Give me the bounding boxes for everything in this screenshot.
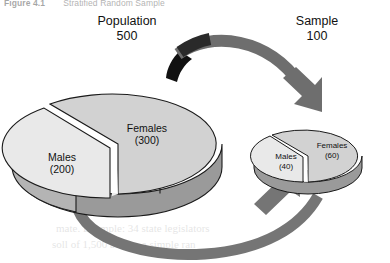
figure-root: Figure 4.1Stratified Random Sample mate.… <box>0 0 390 263</box>
sample-males-label: Males (40) <box>259 152 313 171</box>
sample-males-value: (40) <box>259 162 313 172</box>
population-females-value: (300) <box>104 134 190 146</box>
population-females-label: Females (300) <box>104 122 190 146</box>
population-males-value: (200) <box>22 163 102 175</box>
figure-artwork <box>0 0 390 263</box>
population-to-sample-females-arrow <box>166 39 322 112</box>
sample-females-name: Females <box>300 141 364 151</box>
population-males-name: Males <box>22 151 102 163</box>
sample-males-name: Males <box>259 152 313 162</box>
population-males-label: Males (200) <box>22 151 102 175</box>
population-females-name: Females <box>104 122 190 134</box>
